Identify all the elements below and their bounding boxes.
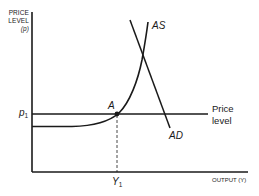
y1-sub: 1 <box>119 181 123 188</box>
price-level-label-line1: Price <box>212 104 234 114</box>
ad-curve <box>130 20 170 128</box>
as-curve <box>32 22 148 127</box>
price-level-label-line2: level <box>212 116 232 126</box>
x-axis-label: OUTPUT (Y) <box>212 177 246 183</box>
diagram-canvas <box>0 0 259 196</box>
y1-label: Y1 <box>112 177 122 188</box>
y-axis-label-line1: PRICE <box>0 10 29 17</box>
y-axis-label-line2: LEVEL <box>0 18 29 25</box>
ad-label: AD <box>169 131 183 141</box>
p1-sub: 1 <box>25 112 29 119</box>
p1-label: p1 <box>19 108 28 119</box>
as-label: AS <box>152 21 165 31</box>
equilibrium-label-a: A <box>108 101 115 111</box>
equilibrium-point-a <box>115 112 120 117</box>
y-axis-label-line3: (p) <box>0 26 29 33</box>
y1-main: Y <box>112 176 119 187</box>
